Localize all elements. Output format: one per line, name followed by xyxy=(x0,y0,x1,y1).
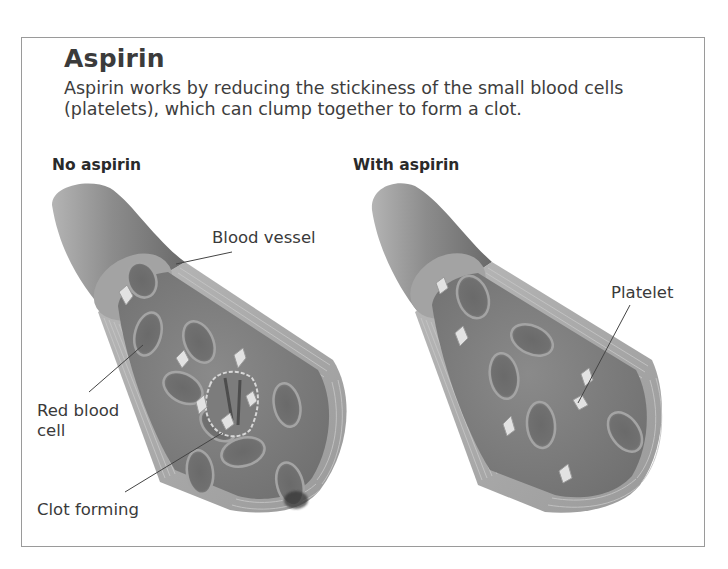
label-clot-forming: Clot forming xyxy=(37,500,139,519)
panel-heading-with-aspirin: With aspirin xyxy=(353,156,459,174)
label-red-blood-cell-line1: Red blood xyxy=(37,401,119,420)
label-platelet: Platelet xyxy=(611,283,673,302)
panel-heading-no-aspirin: No aspirin xyxy=(52,156,141,174)
label-blood-vessel: Blood vessel xyxy=(212,228,316,247)
vessel-with-aspirin xyxy=(372,183,662,513)
label-red-blood-cell-line2: cell xyxy=(37,421,65,440)
